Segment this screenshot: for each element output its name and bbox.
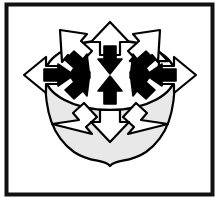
figure-frame xyxy=(0,0,219,199)
figure-canvas xyxy=(0,0,219,199)
figure-root xyxy=(0,0,219,199)
